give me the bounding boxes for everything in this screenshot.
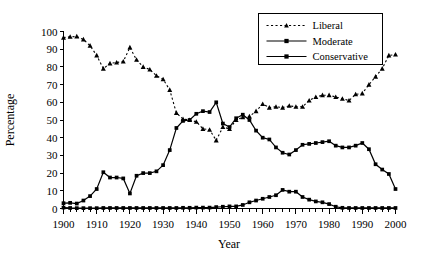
x-tick-label: 1900 (53, 218, 76, 230)
data-point (234, 116, 238, 120)
data-point (168, 206, 172, 210)
x-tick-label: 2000 (385, 218, 408, 230)
x-tick-label: 1970 (285, 218, 308, 230)
y-tick-label: 90 (47, 43, 59, 55)
data-point (254, 199, 258, 203)
data-point (234, 205, 238, 209)
data-point (287, 190, 291, 194)
data-point (181, 119, 185, 123)
data-point (155, 169, 159, 173)
data-point (188, 118, 192, 122)
data-point (374, 206, 378, 210)
data-point (387, 172, 391, 176)
data-point (75, 206, 79, 210)
data-point (380, 206, 384, 210)
data-point (168, 148, 172, 152)
y-tick-label: 100 (41, 26, 58, 38)
line-chart: 0102030405060708090100 19001910192019301… (0, 0, 424, 263)
data-point (294, 148, 298, 152)
legend-marker-sample (284, 39, 288, 43)
data-point (341, 206, 345, 210)
data-point (108, 61, 113, 66)
data-point (301, 143, 305, 147)
data-point (75, 202, 79, 206)
data-point (394, 187, 398, 191)
x-tick-label: 1910 (86, 218, 109, 230)
data-point (141, 64, 146, 69)
data-point (380, 168, 384, 172)
series-line (64, 102, 396, 203)
data-point (161, 77, 166, 82)
data-point (207, 127, 212, 132)
data-point (62, 201, 66, 205)
data-point (314, 200, 318, 204)
data-point (334, 205, 338, 209)
data-point (115, 176, 119, 180)
x-axis: 1900191019201930194019501960197019801990… (53, 209, 408, 230)
data-point (314, 141, 318, 145)
data-point (287, 153, 291, 157)
data-point (307, 198, 311, 202)
y-axis-title: Percentage (3, 94, 17, 147)
data-point (128, 192, 132, 196)
y-tick-label: 50 (47, 114, 59, 126)
data-point (228, 205, 232, 209)
data-point (267, 195, 271, 199)
y-axis: 0102030405060708090100 (41, 26, 64, 215)
data-point (228, 125, 232, 129)
data-point (267, 138, 271, 142)
data-point (254, 129, 258, 133)
data-point (214, 205, 218, 209)
data-point (188, 206, 192, 210)
data-point (241, 203, 245, 207)
data-point (135, 206, 139, 210)
data-point (354, 206, 358, 210)
data-point (82, 206, 86, 210)
data-point (340, 96, 345, 101)
x-tick-label: 1940 (185, 218, 208, 230)
data-point (74, 34, 79, 39)
y-tick-label: 60 (47, 96, 59, 108)
data-point (115, 206, 119, 210)
data-point (327, 93, 332, 98)
data-point (201, 206, 205, 210)
x-axis-title: Year (218, 237, 240, 251)
data-point (194, 112, 198, 116)
data-point (108, 176, 112, 180)
data-point (175, 206, 179, 210)
data-point (321, 140, 325, 144)
data-point (380, 66, 385, 71)
data-point (161, 206, 165, 210)
x-tick-label: 1960 (252, 218, 275, 230)
data-point (347, 146, 351, 150)
data-point (254, 109, 259, 114)
data-point (135, 174, 139, 178)
data-point (82, 199, 86, 203)
data-point (88, 194, 92, 198)
data-point (274, 193, 278, 197)
data-point (301, 195, 305, 199)
legend-label-liberal: Liberal (313, 20, 343, 31)
data-point (354, 144, 358, 148)
data-point (134, 57, 139, 62)
data-point (148, 171, 152, 175)
data-point (313, 94, 318, 99)
chart-legend: LiberalModerateConservative (259, 14, 383, 65)
y-tick-label: 40 (47, 132, 59, 144)
y-tick-label: 30 (47, 149, 59, 161)
data-point (101, 170, 105, 174)
data-point (393, 52, 398, 57)
x-tick-label: 1920 (119, 218, 142, 230)
data-point (174, 110, 179, 115)
data-point (374, 162, 378, 166)
series-moderate (62, 100, 398, 205)
data-point (367, 206, 371, 210)
legend-marker-sample (284, 54, 288, 58)
legend-label-moderate: Moderate (313, 36, 354, 47)
data-point (360, 206, 364, 210)
data-point (334, 144, 338, 148)
data-point (108, 206, 112, 210)
y-tick-label: 80 (47, 61, 59, 73)
data-point (181, 206, 185, 210)
data-point (167, 87, 172, 92)
